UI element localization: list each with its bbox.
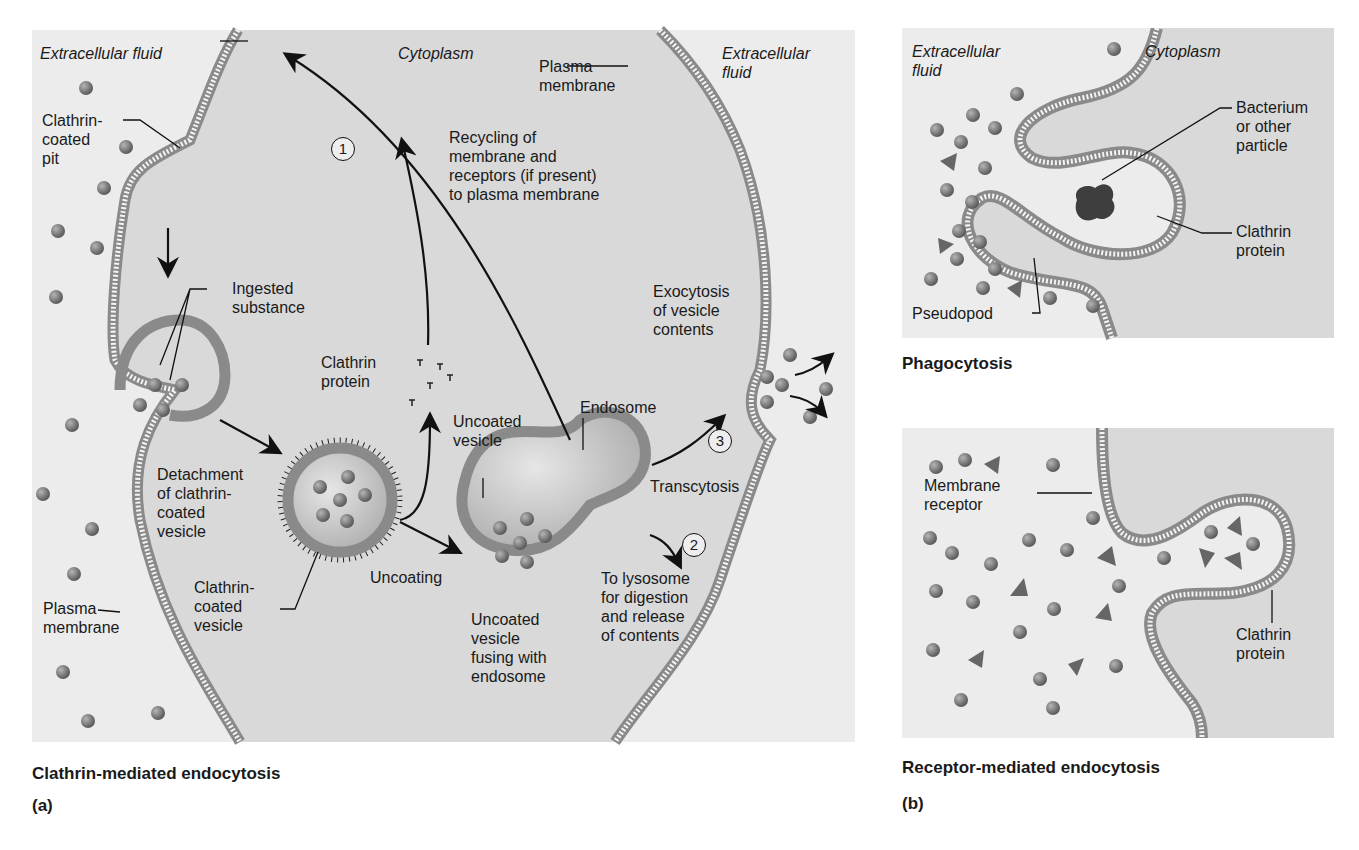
panel-letter-b: (b) xyxy=(902,794,924,814)
label-cytoplasm-phago: Cytoplasm xyxy=(1145,42,1221,61)
label-extracellular-fluid-right: Extracellular fluid xyxy=(722,44,810,82)
label-recycling: Recycling of membrane and receptors (if … xyxy=(449,128,599,204)
receptor-mediated-illustration xyxy=(902,428,1334,740)
label-clathrin-protein-a: Clathrin protein xyxy=(321,353,376,391)
label-membrane-receptor: Membrane receptor xyxy=(924,476,1000,514)
step-3-marker: 3 xyxy=(708,429,732,453)
label-uncoated-vesicle: Uncoated vesicle xyxy=(453,412,522,450)
label-endosome: Endosome xyxy=(580,398,657,417)
panel-b-receptor-mediated: Membrane receptor Clathrin protein Recep… xyxy=(902,428,1334,838)
label-plasma-membrane-top: Plasma membrane xyxy=(539,57,615,95)
label-detachment: Detachment of clathrin- coated vesicle xyxy=(157,465,243,541)
label-clathrin-coated-pit: Clathrin- coated pit xyxy=(42,111,102,168)
label-exocytosis: Exocytosis of vesicle contents xyxy=(653,282,729,339)
label-clathrin-coated-vesicle: Clathrin- coated vesicle xyxy=(194,578,254,635)
label-to-lysosome: To lysosome for digestion and release of… xyxy=(601,569,690,645)
step-1-marker: 1 xyxy=(331,137,355,161)
label-extracellular-fluid-phago: Extracellular fluid xyxy=(912,42,1000,80)
label-uncoating: Uncoating xyxy=(370,568,442,587)
label-clathrin-protein-phago: Clathrin protein xyxy=(1236,222,1291,260)
panel-a-illustration xyxy=(0,0,860,760)
caption-clathrin-mediated: Clathrin-mediated endocytosis xyxy=(32,764,280,784)
step-2-marker: 2 xyxy=(682,533,706,557)
label-clathrin-protein-receptor: Clathrin protein xyxy=(1236,625,1291,663)
label-bacterium: Bacterium or other particle xyxy=(1236,98,1308,155)
label-cytoplasm: Cytoplasm xyxy=(398,44,474,63)
label-plasma-membrane-left: Plasma membrane xyxy=(43,599,119,637)
label-pseudopod: Pseudopod xyxy=(912,304,993,323)
panel-a-clathrin-mediated: Extracellular fluid Cytoplasm Extracellu… xyxy=(0,0,860,850)
panel-letter-a: (a) xyxy=(32,796,53,816)
label-uncoated-fusing: Uncoated vesicle fusing with endosome xyxy=(471,610,547,686)
label-transcytosis: Transcytosis xyxy=(650,477,739,496)
caption-phagocytosis: Phagocytosis xyxy=(902,354,1013,374)
caption-receptor-mediated: Receptor-mediated endocytosis xyxy=(902,758,1160,778)
label-ingested-substance: Ingested substance xyxy=(232,279,305,317)
panel-b-phagocytosis: Extracellular fluid Cytoplasm Bacterium … xyxy=(902,28,1334,368)
label-extracellular-fluid-left: Extracellular fluid xyxy=(40,44,162,63)
